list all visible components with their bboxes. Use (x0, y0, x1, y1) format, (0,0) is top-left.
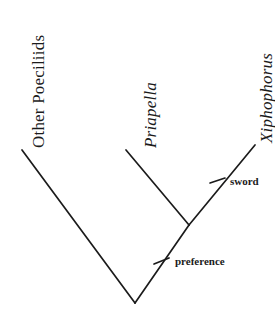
taxon-label-xiphophorus: Xiphophorus (258, 53, 275, 143)
phylogenetic-tree-figure: Other Poeciliids Priapella Xiphophorus p… (0, 0, 275, 317)
taxon-label-priapella: Priapella (142, 82, 159, 148)
trait-label-sword: sword (230, 176, 259, 187)
taxon-label-other-poeciliids: Other Poeciliids (30, 35, 47, 148)
branch-other-poeciliids (22, 150, 135, 303)
branch-priapella (126, 150, 189, 225)
tree-branches (22, 145, 255, 303)
trait-label-preference: preference (175, 256, 225, 267)
preference-tick-icon (154, 258, 169, 264)
sword-tick-icon (210, 178, 225, 183)
trait-tick-marks (154, 178, 225, 264)
